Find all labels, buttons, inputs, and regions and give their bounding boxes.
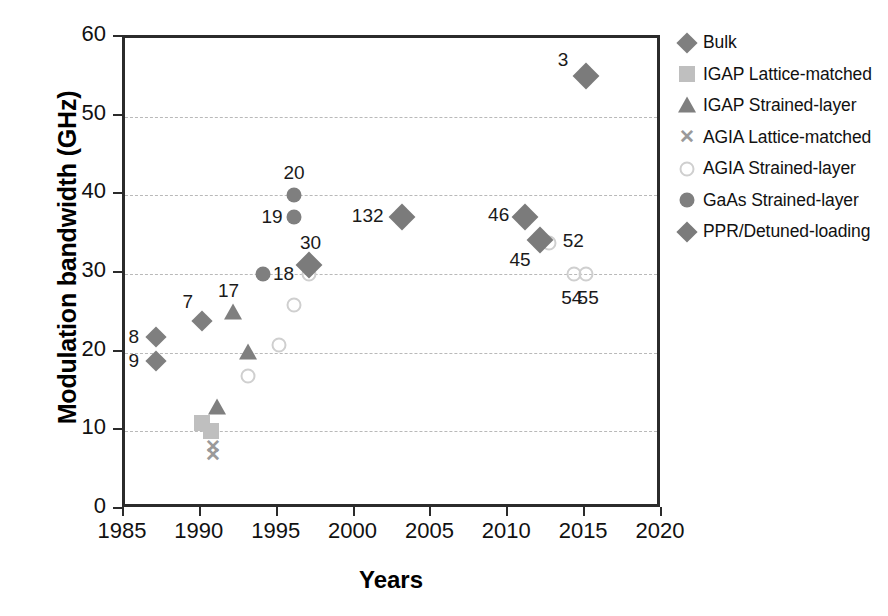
- x-tick-mark: [276, 507, 278, 516]
- y-tick-mark: [113, 271, 122, 273]
- x-tick-mark: [660, 507, 662, 516]
- data-point-circle-fill: [256, 267, 271, 282]
- y-tick-mark: [113, 507, 122, 509]
- x-tick-label: 2020: [615, 518, 705, 544]
- data-point-circle-open: [271, 337, 286, 352]
- x-axis-title: Years: [122, 566, 660, 594]
- legend-item-1[interactable]: IGAP Lattice-matched: [676, 59, 888, 91]
- data-point-label: 132: [352, 205, 384, 227]
- legend-item-0[interactable]: Bulk: [676, 27, 888, 59]
- gridline: [125, 195, 657, 196]
- x-tick-mark: [353, 507, 355, 516]
- data-point-label: 52: [563, 230, 584, 252]
- y-tick-label: 20: [46, 336, 106, 362]
- data-point-label: 18: [273, 263, 294, 285]
- data-point-label: 7: [183, 291, 194, 313]
- legend-label: GaAs Strained-layer: [703, 190, 859, 211]
- data-point-triangle: [208, 398, 226, 414]
- legend-diamond-icon: [676, 32, 698, 54]
- data-point-diamond-lg: [511, 204, 538, 231]
- data-point-label: 8: [128, 326, 139, 348]
- y-tick-label: 0: [46, 493, 106, 519]
- data-point-label: 30: [300, 232, 321, 254]
- legend-item-2[interactable]: IGAP Strained-layer: [676, 90, 888, 122]
- data-point-diamond-lg: [388, 204, 415, 231]
- legend-x-icon: [676, 126, 698, 148]
- legend-marker-glyph: [680, 193, 695, 208]
- legend-item-6[interactable]: PPR/Detuned-loading: [676, 216, 888, 248]
- y-tick-label: 10: [46, 414, 106, 440]
- x-tick-mark: [429, 507, 431, 516]
- legend-item-4[interactable]: AGIA Strained-layer: [676, 153, 888, 185]
- legend-item-3[interactable]: AGIA Lattice-matched: [676, 122, 888, 154]
- data-point-circle-open: [240, 369, 255, 384]
- y-tick-label: 60: [46, 21, 106, 47]
- legend-marker-glyph: [679, 66, 695, 82]
- legend-label: PPR/Detuned-loading: [703, 221, 870, 242]
- data-point-diamond: [191, 311, 212, 332]
- legend-marker-glyph: [678, 96, 696, 112]
- legend-triangle-icon: [676, 95, 698, 117]
- data-point-label: 55: [578, 287, 599, 309]
- gridline: [125, 353, 657, 354]
- x-tick-mark: [506, 507, 508, 516]
- gridline: [125, 117, 657, 118]
- y-tick-mark: [113, 114, 122, 116]
- data-point-label: 9: [128, 350, 139, 372]
- data-point-label: 17: [218, 280, 239, 302]
- legend-item-5[interactable]: GaAs Strained-layer: [676, 185, 888, 217]
- legend-marker-glyph: [676, 221, 697, 242]
- chart-root: Modulation bandwidth (GHz) Years 0102030…: [0, 0, 888, 616]
- data-point-label: 20: [284, 162, 305, 184]
- plot-area: 897171852545520193013246453: [122, 35, 660, 507]
- y-tick-mark: [113, 192, 122, 194]
- legend-label: IGAP Lattice-matched: [703, 64, 872, 85]
- y-tick-mark: [113, 35, 122, 37]
- y-tick-mark: [113, 428, 122, 430]
- y-tick-mark: [113, 350, 122, 352]
- legend-square-icon: [676, 63, 698, 85]
- legend-label: IGAP Strained-layer: [703, 95, 856, 116]
- data-point-x: [204, 446, 222, 464]
- legend-marker-glyph: [680, 161, 695, 176]
- legend-circle-fill-icon: [676, 189, 698, 211]
- legend-label: AGIA Lattice-matched: [703, 127, 871, 148]
- data-point-label: 3: [558, 49, 569, 71]
- data-point-diamond: [145, 326, 166, 347]
- data-point-diamond-lg: [573, 62, 600, 89]
- data-point-circle-fill: [287, 210, 302, 225]
- legend-label: Bulk: [703, 32, 737, 53]
- legend-label: AGIA Strained-layer: [703, 158, 856, 179]
- legend-marker-glyph: [676, 32, 697, 53]
- y-tick-label: 40: [46, 178, 106, 204]
- legend-diamond-icon: [676, 221, 698, 243]
- x-tick-mark: [122, 507, 124, 516]
- data-point-circle-open: [579, 267, 594, 282]
- data-point-label: 45: [509, 249, 530, 271]
- x-tick-mark: [583, 507, 585, 516]
- x-tick-mark: [199, 507, 201, 516]
- data-point-triangle: [224, 304, 242, 320]
- data-point-label: 46: [488, 204, 509, 226]
- data-point-label: 19: [262, 206, 283, 228]
- legend: BulkIGAP Lattice-matchedIGAP Strained-la…: [676, 27, 888, 248]
- y-tick-label: 50: [46, 100, 106, 126]
- data-point-triangle: [239, 343, 257, 359]
- legend-circle-open-icon: [676, 158, 698, 180]
- y-tick-label: 30: [46, 257, 106, 283]
- data-point-circle-fill: [287, 188, 302, 203]
- data-point-circle-open: [287, 298, 302, 313]
- legend-marker-glyph: [678, 128, 696, 146]
